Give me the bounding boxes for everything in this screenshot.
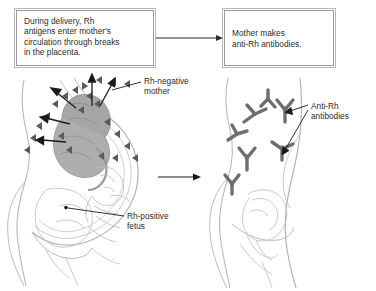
antibody-symbol bbox=[239, 148, 255, 170]
antibody-symbol bbox=[244, 105, 266, 122]
leader-rh-positive-fetus bbox=[64, 206, 124, 216]
involuted-uterus bbox=[243, 190, 287, 260]
callout-mother-makes-antibodies: Mother makes anti-Rh antibodies. bbox=[224, 10, 334, 66]
label-anti-rh-antibodies: Anti-Rh antibodies bbox=[311, 101, 349, 122]
callout-during-delivery-text: During delivery, Rh antigens enter mothe… bbox=[24, 16, 147, 58]
right-figure-post-delivery-woman bbox=[210, 78, 308, 288]
label-rh-negative-mother: Rh-negative mother bbox=[144, 76, 189, 97]
box-to-box-arrow bbox=[155, 35, 223, 41]
figure-to-figure-arrow bbox=[158, 174, 201, 181]
antibody-symbol bbox=[261, 90, 275, 107]
callout-mother-makes-antibodies-text: Mother makes anti-Rh antibodies. bbox=[232, 28, 302, 49]
illustration-canvas: During delivery, Rh antigens enter mothe… bbox=[0, 0, 376, 291]
anti-rh-antibody-symbols bbox=[225, 90, 293, 194]
left-figure-pregnant-woman bbox=[8, 74, 141, 286]
label-rh-positive-fetus: Rh-positive fetus bbox=[127, 211, 169, 232]
antibody-symbol bbox=[225, 175, 239, 194]
callout-during-delivery: During delivery, Rh antigens enter mothe… bbox=[16, 10, 154, 66]
